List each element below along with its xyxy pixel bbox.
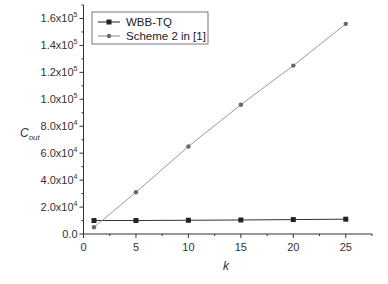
data-point-square-icon [133, 218, 138, 223]
series-line-wbb-tq [94, 219, 346, 220]
series-layer [91, 22, 348, 230]
x-tick-label: 10 [182, 241, 194, 253]
x-axis-label: k [223, 259, 230, 273]
y-tick-label: 1.4x105 [41, 38, 78, 51]
data-point-square-icon [343, 217, 348, 222]
y-tick-label: 8.0x104 [41, 119, 78, 132]
data-point-circle-icon [186, 144, 190, 148]
data-point-square-icon [238, 217, 243, 222]
x-tick-label: 20 [287, 241, 299, 253]
y-tick-label: 1.6x105 [41, 11, 78, 24]
line-chart: 05101520250.02.0x1044.0x1046.0x1048.0x10… [0, 0, 388, 284]
series-line-scheme2 [94, 24, 346, 227]
data-point-circle-icon [344, 22, 348, 26]
legend-label-wbb: WBB-TQ [126, 16, 172, 28]
x-tick-label: 15 [235, 241, 247, 253]
y-axis-label-main: C [20, 126, 29, 140]
x-tick-label: 0 [80, 241, 86, 253]
data-point-square-icon [291, 217, 296, 222]
data-point-circle-icon [291, 63, 295, 67]
y-tick-label: 0.0 [62, 228, 77, 240]
data-point-circle-icon [239, 102, 243, 106]
legend-marker-square-icon [107, 20, 112, 25]
x-tick-label: 25 [340, 241, 352, 253]
data-point-circle-icon [134, 190, 138, 194]
y-tick-label: 4.0x104 [41, 173, 78, 186]
y-tick-label: 6.0x104 [41, 146, 78, 159]
y-axis-label-sub: out [29, 133, 41, 142]
data-point-circle-icon [92, 225, 96, 229]
data-point-square-icon [186, 218, 191, 223]
y-tick-label: 2.0x104 [41, 200, 78, 213]
x-tick-label: 5 [133, 241, 139, 253]
data-point-square-icon [91, 218, 96, 223]
legend-marker-circle-icon [107, 34, 111, 38]
y-axis-label: Cout [20, 126, 41, 142]
legend-label-scheme2: Scheme 2 in [1] [126, 30, 206, 42]
legend: WBB-TQ Scheme 2 in [1] [92, 12, 208, 44]
y-tick-label: 1.0x105 [41, 92, 78, 105]
y-tick-label: 1.2x105 [41, 65, 78, 78]
